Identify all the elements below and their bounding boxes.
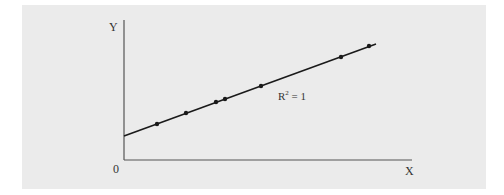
data-point: [155, 122, 159, 126]
data-point: [259, 84, 263, 88]
x-axis-label: X: [405, 164, 414, 178]
data-point: [223, 97, 227, 101]
origin-label: 0: [113, 162, 119, 176]
scatter-chart: Y 0 X R2 = 1: [0, 0, 504, 195]
data-point: [184, 111, 188, 115]
data-point: [214, 100, 218, 104]
data-point: [367, 44, 371, 48]
regression-line: [124, 44, 376, 136]
data-point: [339, 55, 343, 59]
y-axis-label: Y: [109, 20, 118, 34]
r-squared-value: = 1: [289, 90, 306, 102]
r-squared-annotation: R2 = 1: [278, 89, 306, 102]
